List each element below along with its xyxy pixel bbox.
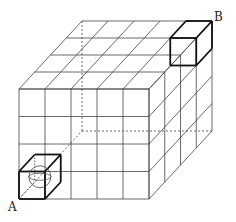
cube-diagram: AB [0, 0, 236, 222]
label-a: A [7, 200, 17, 214]
label-b: B [214, 10, 223, 24]
